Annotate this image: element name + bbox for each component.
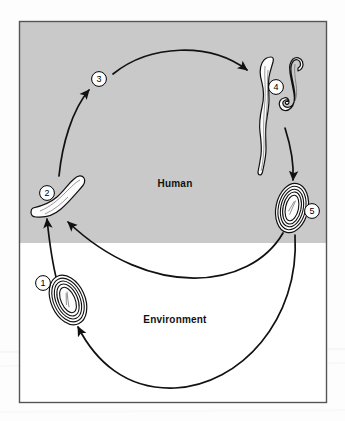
stage-2-number: 2 bbox=[44, 188, 49, 198]
stage-5-number: 5 bbox=[309, 206, 314, 216]
stage-3-group: 3 bbox=[92, 72, 107, 87]
stage-4-number: 4 bbox=[273, 82, 278, 92]
zone-label-human: Human bbox=[158, 178, 193, 189]
life-cycle-figure: 1 2 3 4 bbox=[0, 0, 345, 421]
stage-1-number: 1 bbox=[40, 278, 45, 288]
stage-3-number: 3 bbox=[96, 74, 101, 84]
zone-label-environment: Environment bbox=[143, 314, 207, 325]
life-cycle-diagram-canvas: 1 2 3 4 bbox=[0, 0, 345, 421]
